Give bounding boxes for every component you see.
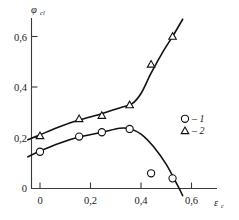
chart-canvas: 0,6 0,4 0,2 0 0 0,2 0,4 0,6 φ cl ε c – 1…: [0, 0, 239, 220]
marker-circle: [169, 175, 176, 182]
y-axis-ticks: [32, 37, 38, 138]
y-tick-label-0.6: 0,6: [14, 32, 27, 43]
legend-label-2: – 2: [191, 125, 205, 136]
legend-label-1: – 1: [191, 113, 205, 124]
marker-circle: [98, 129, 105, 136]
y-tick-label-0.4: 0,4: [14, 82, 28, 93]
marker-triangle: [181, 127, 189, 134]
y-tick-label-0: 0: [22, 183, 27, 194]
series-2-line: [28, 19, 183, 140]
x-tick-label-0.2: 0,2: [84, 195, 97, 206]
x-axis-title-symbol: ε: [214, 197, 219, 208]
y-axis-title-subscript: cl: [40, 9, 45, 16]
y-tick-label-0.2: 0,2: [14, 133, 27, 144]
x-axis-title: ε c: [214, 197, 224, 209]
marker-circle: [76, 133, 83, 140]
x-axis-ticks: [40, 183, 192, 189]
marker-triangle: [147, 61, 155, 68]
legend-item-1: – 1: [181, 113, 204, 124]
series-1-line: [28, 128, 183, 196]
marker-circle: [181, 115, 188, 122]
marker-circle: [148, 170, 155, 177]
marker-circle: [126, 125, 133, 132]
series-1: [28, 125, 183, 195]
chart-figure: 0,6 0,4 0,2 0 0 0,2 0,4 0,6 φ cl ε c – 1…: [0, 0, 239, 220]
series-2: [28, 19, 183, 140]
x-tick-label-0: 0: [37, 195, 42, 206]
chart-legend: – 1– 2: [181, 113, 204, 136]
x-tick-label-0.4: 0,4: [134, 195, 148, 206]
x-tick-label-0.6: 0,6: [185, 195, 198, 206]
y-axis-title-symbol: φ: [31, 4, 37, 15]
marker-triangle: [169, 33, 177, 40]
marker-circle: [36, 148, 43, 155]
marker-triangle: [75, 115, 83, 122]
y-axis-title: φ cl: [31, 4, 45, 16]
x-axis-title-subscript: c: [221, 202, 224, 209]
legend-item-2: – 2: [181, 125, 204, 136]
series-layer: [28, 19, 183, 195]
